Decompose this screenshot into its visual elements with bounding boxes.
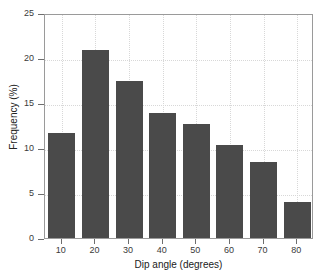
y-tick-mark-5 — [38, 194, 44, 195]
x-axis-title: Dip angle (degrees) — [44, 260, 313, 270]
x-tick-label-60: 60 — [224, 246, 234, 255]
x-tick-mark-20 — [94, 239, 95, 244]
x-tick-label-40: 40 — [157, 246, 167, 255]
bar-80 — [284, 202, 311, 238]
x-tick-mark-60 — [229, 239, 230, 244]
bar-30 — [116, 81, 143, 238]
bar-10 — [48, 133, 75, 238]
x-tick-label-20: 20 — [89, 246, 99, 255]
x-tick-label-30: 30 — [123, 246, 133, 255]
y-tick-label-10: 10 — [24, 144, 34, 153]
x-tick-label-10: 10 — [56, 246, 66, 255]
y-axis-title: Frequency (%) — [9, 57, 19, 177]
y-tick-label-15: 15 — [24, 99, 34, 108]
y-tick-mark-0 — [38, 239, 44, 240]
x-tick-label-50: 50 — [190, 246, 200, 255]
x-tick-label-80: 80 — [291, 246, 301, 255]
x-tick-mark-30 — [128, 239, 129, 244]
y-tick-label-20: 20 — [24, 54, 34, 63]
y-tick-mark-25 — [38, 14, 44, 15]
x-tick-mark-80 — [296, 239, 297, 244]
bar-60 — [216, 145, 243, 238]
x-tick-mark-50 — [195, 239, 196, 244]
bar-chart-figure: 0510152025 1020304050607080 Dip angle (d… — [0, 0, 327, 276]
bar-70 — [250, 162, 277, 239]
y-tick-mark-10 — [38, 149, 44, 150]
y-tick-label-0: 0 — [29, 234, 34, 243]
bar-50 — [183, 124, 210, 238]
y-tick-mark-15 — [38, 104, 44, 105]
bar-40 — [149, 113, 176, 238]
x-tick-mark-10 — [61, 239, 62, 244]
x-tick-label-70: 70 — [258, 246, 268, 255]
plot-area — [44, 14, 313, 239]
y-tick-mark-20 — [38, 59, 44, 60]
x-tick-mark-40 — [162, 239, 163, 244]
bar-20 — [82, 50, 109, 238]
y-tick-label-5: 5 — [29, 189, 34, 198]
y-tick-label-25: 25 — [24, 9, 34, 18]
x-tick-mark-70 — [263, 239, 264, 244]
